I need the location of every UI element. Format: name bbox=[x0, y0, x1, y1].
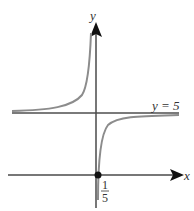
curve-right-branch bbox=[98, 115, 179, 200]
curve-left-branch bbox=[12, 33, 91, 111]
x-axis-label: x bbox=[183, 168, 190, 183]
y-axis-label: y bbox=[88, 8, 96, 23]
asymptote-label: y = 5 bbox=[150, 98, 180, 113]
graph: y x y = 5 1 5 bbox=[0, 0, 194, 211]
intercept-denominator: 5 bbox=[102, 191, 108, 205]
intercept-numerator: 1 bbox=[102, 178, 108, 192]
x-intercept-point bbox=[95, 172, 102, 179]
